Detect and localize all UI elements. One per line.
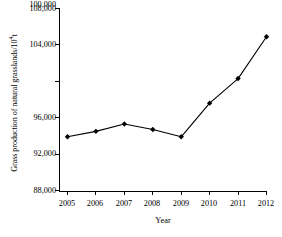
- x-axis-title: Year: [59, 216, 267, 226]
- x-axis-tick-labels: 2005 2006 2007 2008 2009 2010 2011 2012: [0, 0, 282, 237]
- chart-figure: Grass production of natural grasslands/1…: [0, 0, 282, 237]
- x-tick-label: 2012: [246, 199, 282, 209]
